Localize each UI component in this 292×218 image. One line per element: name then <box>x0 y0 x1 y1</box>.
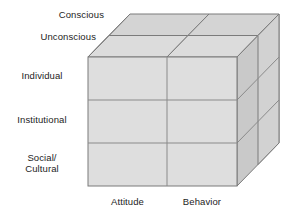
depth-label-conscious: Conscious <box>0 9 104 20</box>
side-face-back-slab <box>258 14 279 165</box>
unconscious-slab-group <box>88 36 258 58</box>
cube-diagram: Conscious Unconscious Individual Institu… <box>0 0 292 218</box>
front-face-group <box>88 57 237 186</box>
depth-label-unconscious: Unconscious <box>0 31 96 42</box>
row-label-social-cultural: Social/ Cultural <box>2 152 82 174</box>
row-label-individual: Individual <box>2 70 82 81</box>
column-label-attitude: Attitude <box>88 196 167 207</box>
column-label-behavior: Behavior <box>167 196 237 207</box>
front-face <box>88 57 237 186</box>
row-label-institutional: Institutional <box>2 114 82 125</box>
